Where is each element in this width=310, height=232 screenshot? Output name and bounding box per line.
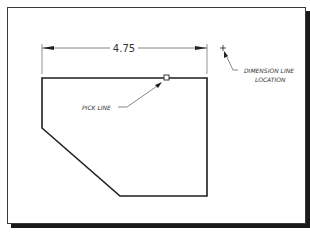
dimension-location-label-line2: LOCATION: [255, 76, 286, 83]
pick-line-leader: [118, 84, 160, 107]
dimension-location-label-line1: DIMENSION LINE: [244, 67, 294, 74]
part-outline: [42, 78, 207, 196]
dimension-leader-arrow-icon: [224, 51, 228, 58]
arrowhead-right-icon: [195, 46, 207, 50]
pick-box-icon: [164, 75, 169, 80]
cad-drawing: 4.75 PICK LINE DIMENSION LINE LOCATION: [0, 0, 310, 232]
pick-line-label: PICK LINE: [82, 104, 111, 111]
arrowhead-left-icon: [42, 46, 54, 50]
dimension-value: 4.75: [113, 43, 135, 54]
